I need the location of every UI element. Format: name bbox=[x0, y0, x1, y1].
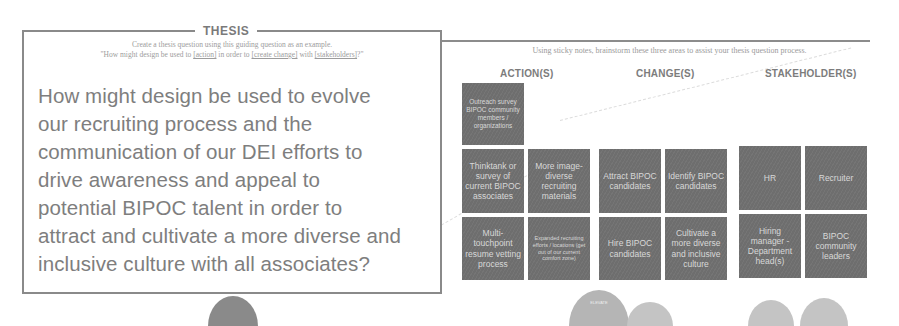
thesis-title: THESIS bbox=[195, 24, 257, 38]
sticky-note[interactable]: Cultivate a more diverse and inclusive c… bbox=[665, 217, 727, 280]
sticky-note[interactable]: Multi-touchpoint resume vetting process bbox=[462, 217, 524, 280]
guiding-mid1: in order to bbox=[216, 50, 251, 59]
guiding-action: [action] bbox=[193, 50, 216, 59]
thesis-guiding-question: "How might design be used to [action] in… bbox=[22, 50, 442, 59]
column-heading-changes: CHANGE(S) bbox=[636, 68, 694, 79]
thesis-question[interactable]: How might design be used to evolve our r… bbox=[38, 82, 438, 278]
sticky-note[interactable]: Thinktank or survey of current BIPOC ass… bbox=[462, 149, 524, 213]
sticky-note[interactable]: Attract BIPOC candidates bbox=[599, 149, 661, 213]
column-heading-stakeholders: STAKEHOLDER(S) bbox=[765, 68, 857, 79]
sticky-note[interactable]: Outreach survey BIPOC community members … bbox=[462, 83, 524, 145]
sticky-note[interactable]: Recruiter bbox=[805, 146, 867, 210]
sticky-note[interactable]: BIPOC community leaders bbox=[805, 214, 867, 278]
board-top-divider bbox=[440, 40, 870, 42]
sticky-note[interactable]: Hiring manager - Department head(s) bbox=[739, 214, 801, 278]
guiding-change: [create change] bbox=[251, 50, 297, 59]
thesis-line: How might design be used to evolve bbox=[38, 82, 438, 110]
guiding-stakeholders: [stakeholders] bbox=[315, 50, 357, 59]
thesis-line: inclusive culture with all associates? bbox=[38, 250, 438, 278]
thesis-line: attract and cultivate a more diverse and bbox=[38, 222, 438, 250]
column-heading-actions: ACTION(S) bbox=[500, 68, 553, 79]
thesis-line: our recruiting process and the bbox=[38, 110, 438, 138]
elevate-circle-label: ELEVATE bbox=[569, 300, 629, 305]
sticky-note[interactable]: Expanded recruiting efforts / locations … bbox=[528, 217, 590, 280]
thesis-instruction: Create a thesis question using this guid… bbox=[22, 40, 442, 49]
sticky-note[interactable]: HR bbox=[739, 146, 801, 210]
sticky-note[interactable]: More image-diverse recruiting materials bbox=[528, 149, 590, 213]
guiding-suffix: ?" bbox=[357, 50, 363, 59]
guiding-prefix: "How might design be used to bbox=[101, 50, 194, 59]
thesis-line: potential BIPOC talent in order to bbox=[38, 194, 438, 222]
guiding-mid2: with bbox=[298, 50, 315, 59]
thesis-line: drive awareness and appeal to bbox=[38, 166, 438, 194]
sticky-note[interactable]: Hire BIPOC candidates bbox=[599, 217, 661, 280]
thesis-line: communication of our DEI efforts to bbox=[38, 138, 438, 166]
thesis-connector-icon bbox=[208, 296, 258, 326]
sticky-note[interactable]: Identify BIPOC candidates bbox=[665, 149, 727, 213]
